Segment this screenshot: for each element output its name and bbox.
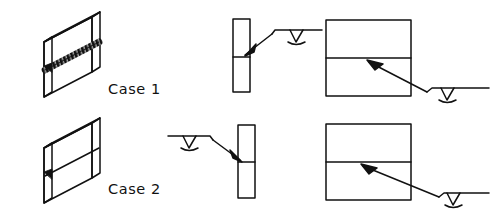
ultrasonic-transducer-icon [441,88,454,100]
case-1-label: Case 1 [108,81,161,97]
weld-bead-icon [45,148,99,176]
case1-edge-view [233,19,322,92]
case1-isometric-plate [44,12,100,97]
case2-edge-view [168,125,255,198]
ultrasonic-transducer-icon [290,30,303,42]
case1-section-probe-surface [427,88,489,92]
case2-isometric-plate [44,118,100,203]
case-2-label: Case 2 [108,181,161,197]
case1-weld-centerline [45,42,99,70]
figure-canvas: Case 1 Case 2 [0,0,496,221]
ultrasonic-transducer-icon [183,136,196,148]
case1-edge-probe-surface [272,30,322,34]
case2-edge-probe-surface [168,136,213,140]
case2-edge-arrowhead [230,150,242,162]
case2-section-view [326,124,489,208]
ultrasonic-transducer-icon [447,193,460,205]
case2-section-arrowhead [361,164,377,174]
diagram-svg: Case 1 Case 2 [0,0,496,221]
case1-section-view [326,20,489,103]
root-defect-triangle-icon [44,169,52,179]
